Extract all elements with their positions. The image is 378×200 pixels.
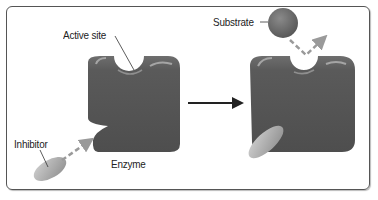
active-site-pointer xyxy=(115,36,134,70)
label-inhibitor: Inhibitor xyxy=(14,138,48,150)
inhibitor-approach-arrow xyxy=(62,142,88,160)
enzyme-inhibition-diagram xyxy=(0,0,378,200)
label-enzyme: Enzyme xyxy=(111,158,146,170)
substrate-deflect-arrow xyxy=(290,40,322,55)
substrate-molecule xyxy=(268,8,298,38)
label-active-site: Active site xyxy=(63,29,106,41)
enzyme-left xyxy=(88,56,180,152)
label-substrate: Substrate xyxy=(213,16,254,28)
